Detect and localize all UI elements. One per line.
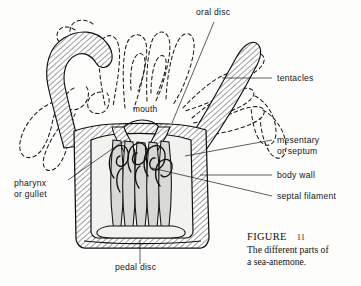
label-pharynx-line1: pharynx <box>14 178 47 188</box>
label-tentacles: tentacles <box>277 73 314 83</box>
caption-line-2: a sea-anemone. <box>247 256 306 267</box>
tentacle-dashed-8 <box>123 35 146 109</box>
label-pharynx-line2: or gullet <box>14 189 47 199</box>
sea-anemone-diagram: oral disc tentacles mouth mesentary or s… <box>0 0 361 286</box>
label-mesentery-line1: mesentary <box>277 135 320 145</box>
caption-figure-word: FIGURE <box>247 231 287 242</box>
figure-caption-group: FIGURE 11 The different parts of a sea-a… <box>247 231 329 267</box>
label-oral-disc: oral disc <box>196 7 231 17</box>
tentacle-dashed-6 <box>88 92 109 114</box>
mesentery-sheet-4 <box>147 142 160 232</box>
caption-figure-number: 11 <box>297 233 305 242</box>
label-body-wall: body wall <box>277 170 315 180</box>
label-mouth: mouth <box>133 104 157 114</box>
tentacle-dashed-12 <box>151 56 166 94</box>
label-pedal-disc: pedal disc <box>115 262 157 272</box>
caption-line-1: The different parts of <box>247 244 329 255</box>
label-septal-filament: septal filament <box>277 191 337 201</box>
label-mesentery-line2: or septum <box>277 146 317 156</box>
mesentery-base <box>97 226 185 238</box>
tentacle-dashed-10 <box>166 34 194 105</box>
figure-container: oral disc tentacles mouth mesentary or s… <box>0 0 361 286</box>
tentacle-dashed-11 <box>131 54 145 91</box>
